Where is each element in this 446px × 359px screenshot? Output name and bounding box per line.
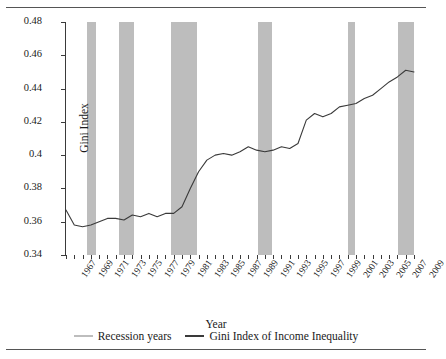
y-tick-0.44: [61, 89, 66, 90]
x-tick-label-1981: 1981: [195, 258, 214, 279]
x-tick-1967: [66, 255, 67, 259]
x-tick-label-1979: 1979: [179, 258, 198, 279]
y-tick-0.46: [61, 55, 66, 56]
x-tick-label-2009: 2009: [427, 258, 446, 279]
x-tick-1975: [132, 255, 133, 259]
x-tick-label-1971: 1971: [112, 258, 131, 279]
gini-index-line-series: [66, 22, 414, 255]
x-tick-label-1997: 1997: [328, 258, 347, 279]
x-tick-1989: [248, 255, 249, 259]
x-tick-label-1985: 1985: [228, 258, 247, 279]
x-tick-label-1969: 1969: [96, 258, 115, 279]
x-tick-1997: [315, 255, 316, 259]
x-tick-2007: [397, 255, 398, 259]
x-tick-2003: [364, 255, 365, 259]
x-tick-label-2007: 2007: [411, 258, 430, 279]
x-tick-label-1977: 1977: [162, 258, 181, 279]
x-tick-label-1967: 1967: [79, 258, 98, 279]
x-tick-2005: [381, 255, 382, 259]
legend-item-gini-index: Gini Index of Income Inequality: [185, 330, 358, 342]
legend-item-recession-years: Recession years: [74, 330, 172, 342]
x-axis-title: Year: [0, 318, 432, 330]
gini-line-swatch: [185, 335, 204, 336]
recession-band-swatch: [74, 335, 93, 338]
y-tick-0.38: [61, 188, 66, 189]
x-tick-label-1987: 1987: [245, 258, 264, 279]
top-divider-rule: [6, 7, 426, 8]
x-tick-1969: [83, 255, 84, 259]
y-tick-label-0.48: 0.48: [24, 16, 42, 26]
x-tick-1991: [265, 255, 266, 259]
legend-label-recession-years: Recession years: [98, 330, 172, 342]
y-tick-label-0.44: 0.44: [24, 83, 42, 93]
x-tick-1981: [182, 255, 183, 259]
x-tick-1973: [116, 255, 117, 259]
plot-area: 0.340.360.380.40.420.440.460.48 Gini Ind…: [66, 22, 414, 255]
x-tick-label-1989: 1989: [261, 258, 280, 279]
y-axis-title: Gini Index: [78, 68, 90, 188]
y-tick-label-0.46: 0.46: [24, 49, 42, 59]
x-tick-1968: [74, 255, 75, 259]
x-tick-1971: [99, 255, 100, 259]
y-tick-0.4: [61, 155, 66, 156]
x-tick-1987: [232, 255, 233, 259]
x-tick-1993: [281, 255, 282, 259]
x-tick-label-2001: 2001: [361, 258, 380, 279]
x-tick-1995: [298, 255, 299, 259]
y-tick-0.36: [61, 222, 66, 223]
x-tick-2009: [414, 255, 415, 259]
y-tick-label-0.36: 0.36: [24, 216, 42, 226]
bottom-divider-rule: [6, 349, 426, 350]
x-tick-label-1991: 1991: [278, 258, 297, 279]
x-tick-1985: [215, 255, 216, 259]
x-tick-2001: [348, 255, 349, 259]
x-tick-1999: [331, 255, 332, 259]
x-tick-label-1993: 1993: [295, 258, 314, 279]
y-tick-0.42: [61, 122, 66, 123]
x-tick-label-1975: 1975: [145, 258, 164, 279]
x-tick-label-2005: 2005: [394, 258, 413, 279]
legend-label-gini-index: Gini Index of Income Inequality: [209, 330, 358, 342]
x-tick-label-1983: 1983: [212, 258, 231, 279]
x-tick-1983: [199, 255, 200, 259]
x-tick-label-1973: 1973: [129, 258, 148, 279]
x-tick-1977: [149, 255, 150, 259]
x-tick-label-1999: 1999: [344, 258, 363, 279]
x-tick-1979: [165, 255, 166, 259]
chart-legend: Recession years Gini Index of Income Ine…: [0, 330, 432, 342]
y-tick-label-0.38: 0.38: [24, 182, 42, 192]
y-tick-label-0.34: 0.34: [24, 249, 42, 259]
y-tick-0.48: [61, 22, 66, 23]
x-tick-label-2003: 2003: [377, 258, 396, 279]
y-tick-label-0.4: 0.4: [29, 149, 42, 159]
y-tick-label-0.42: 0.42: [24, 116, 42, 126]
x-tick-label-1995: 1995: [311, 258, 330, 279]
